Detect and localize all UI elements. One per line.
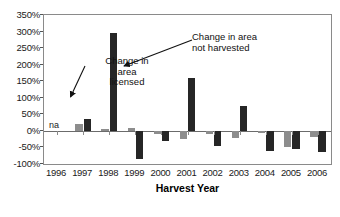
y-axis-tick-label: 350% — [0, 10, 40, 19]
x-axis-tick-mark — [135, 131, 136, 135]
x-axis-tick-labels: 1996199719981999200020012002200320042005… — [43, 167, 332, 181]
na-marker: na — [49, 120, 59, 130]
x-axis-tick-label: 2006 — [304, 167, 330, 178]
y-axis-tick-label: 50% — [0, 109, 40, 118]
bar-not-harvested — [292, 131, 299, 149]
x-axis-tick-label: 1996 — [43, 167, 69, 178]
bar-licensed — [75, 124, 82, 131]
x-axis-tick-label: 1998 — [95, 167, 121, 178]
bar-licensed — [154, 131, 161, 134]
bar-licensed — [101, 129, 108, 131]
y-axis-tick-label: -50% — [0, 142, 40, 151]
plot-area: na Change in area licensed Change in are… — [43, 14, 332, 165]
x-axis-tick-label: 2002 — [200, 167, 226, 178]
y-axis-tick-label: 100% — [0, 92, 40, 101]
bar-licensed — [310, 131, 317, 137]
bar-not-harvested — [318, 131, 325, 153]
y-axis-tick-label: 150% — [0, 76, 40, 85]
bar-licensed — [284, 131, 291, 148]
x-axis-tick-label: 1997 — [69, 167, 95, 178]
x-axis-tick-mark — [161, 131, 162, 135]
bar-not-harvested — [266, 131, 273, 151]
annotation-not-harvested-text: Change in area not harvested — [192, 32, 288, 53]
bar-licensed — [258, 131, 265, 133]
y-axis-tick-label: 300% — [0, 26, 40, 35]
bar-not-harvested — [188, 78, 195, 131]
x-axis-tick-mark — [214, 131, 215, 135]
bar-not-harvested — [214, 131, 221, 146]
x-axis-tick-label: 2004 — [252, 167, 278, 178]
bar-licensed — [232, 131, 239, 138]
x-axis-tick-mark — [318, 131, 319, 135]
bar-licensed — [128, 128, 135, 131]
x-axis-tick-mark — [292, 131, 293, 135]
x-axis-tick-label: 2005 — [278, 167, 304, 178]
x-axis-tick-label: 2000 — [147, 167, 173, 178]
bar-licensed — [206, 131, 213, 134]
x-axis-tick-mark — [83, 131, 84, 135]
x-axis-tick-label: 1999 — [121, 167, 147, 178]
x-axis-tick-mark — [188, 131, 189, 135]
bar-not-harvested — [136, 131, 143, 159]
x-axis-tick-label: 2001 — [173, 167, 199, 178]
y-axis: 350%300%250%200%150%100%50%0%-50%-100% — [0, 0, 40, 217]
y-axis-tick-label: 0% — [0, 125, 40, 134]
bar-chart-figure: 350%300%250%200%150%100%50%0%-50%-100% n… — [0, 0, 340, 217]
x-axis-tick-mark — [240, 131, 241, 135]
annotation-licensed-text: Change in area licensed — [90, 56, 164, 88]
y-axis-tick-label: 200% — [0, 59, 40, 68]
bar-licensed — [180, 131, 187, 139]
y-axis-tick-label: 250% — [0, 43, 40, 52]
x-axis-tick-mark — [57, 131, 58, 135]
x-axis-tick-label: 2003 — [226, 167, 252, 178]
bar-not-harvested — [84, 119, 91, 131]
bar-not-harvested — [240, 106, 247, 131]
x-axis-tick-mark — [109, 131, 110, 135]
x-axis-tick-mark — [266, 131, 267, 135]
x-axis-title: Harvest Year — [43, 182, 332, 194]
bar-not-harvested — [162, 131, 169, 141]
y-axis-tick-label: -100% — [0, 159, 40, 168]
